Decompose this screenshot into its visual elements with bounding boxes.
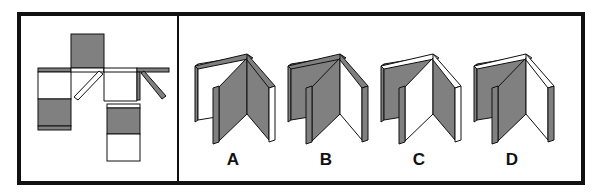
puzzle-frame: A B <box>17 12 585 185</box>
option-label: D <box>466 150 558 170</box>
option-a[interactable]: A <box>187 16 279 181</box>
option-label: B <box>280 150 372 170</box>
book-figure-d <box>466 16 558 146</box>
net-figure <box>21 16 177 181</box>
option-label: C <box>373 150 465 170</box>
book-figure-a <box>187 16 279 146</box>
options-panel: A B <box>179 16 581 181</box>
option-c[interactable]: C <box>373 16 465 181</box>
net-panel <box>21 16 177 181</box>
option-b[interactable]: B <box>280 16 372 181</box>
book-figure-b <box>280 16 372 146</box>
option-d[interactable]: D <box>466 16 558 181</box>
option-label: A <box>187 150 279 170</box>
book-figure-c <box>373 16 465 146</box>
